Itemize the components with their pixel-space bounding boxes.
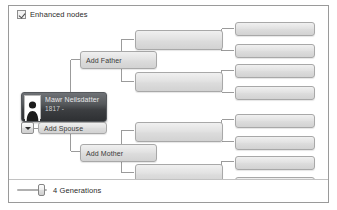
pedigree-node-g4-5[interactable] <box>235 114 315 128</box>
person-silhouette-icon <box>24 95 41 119</box>
person-name: Mawr Neilsdatter <box>45 96 103 103</box>
person-node-root[interactable]: Mawr Neilsdatter 1817 - <box>21 92 107 122</box>
person-node-text: Mawr Neilsdatter 1817 - <box>43 93 106 121</box>
pedigree-chart: Mawr Neilsdatter 1817 - Add Spouse Add F… <box>9 22 328 180</box>
enhanced-nodes-checkbox[interactable]: Enhanced nodes <box>17 10 88 19</box>
add-mother-label: Add Mother <box>86 150 123 157</box>
pedigree-node-g3-3[interactable] <box>135 122 223 142</box>
generations-slider[interactable] <box>17 184 47 196</box>
generations-slider-group: 4 Generations <box>17 184 101 196</box>
add-mother-node[interactable]: Add Mother <box>80 144 157 162</box>
pedigree-node-g4-2[interactable] <box>235 44 315 58</box>
footer-bar: 4 Generations <box>9 179 328 202</box>
generations-label: 4 Generations <box>53 186 101 195</box>
pedigree-node-g4-4[interactable] <box>235 86 315 100</box>
caret-down-icon <box>25 127 31 130</box>
pedigree-node-g4-7[interactable] <box>235 156 315 170</box>
add-father-label: Add Father <box>86 57 122 64</box>
person-dates: 1817 - <box>45 105 103 112</box>
add-spouse-label: Add Spouse <box>44 125 83 132</box>
add-spouse-button[interactable]: Add Spouse <box>38 122 107 134</box>
enhanced-nodes-label: Enhanced nodes <box>30 10 88 19</box>
add-spouse-row: Add Spouse <box>21 122 107 134</box>
pedigree-node-g3-1[interactable] <box>135 30 223 50</box>
pedigree-panel: Enhanced nodes <box>8 5 329 203</box>
pedigree-node-g3-2[interactable] <box>135 72 223 92</box>
pedigree-node-g4-1[interactable] <box>235 22 315 36</box>
pedigree-node-g4-3[interactable] <box>235 64 315 78</box>
pedigree-node-g4-6[interactable] <box>235 136 315 150</box>
add-father-node[interactable]: Add Father <box>80 51 157 69</box>
slider-thumb[interactable] <box>38 184 45 196</box>
checkmark-icon[interactable] <box>17 10 26 19</box>
spouse-dropdown-button[interactable] <box>21 122 34 134</box>
